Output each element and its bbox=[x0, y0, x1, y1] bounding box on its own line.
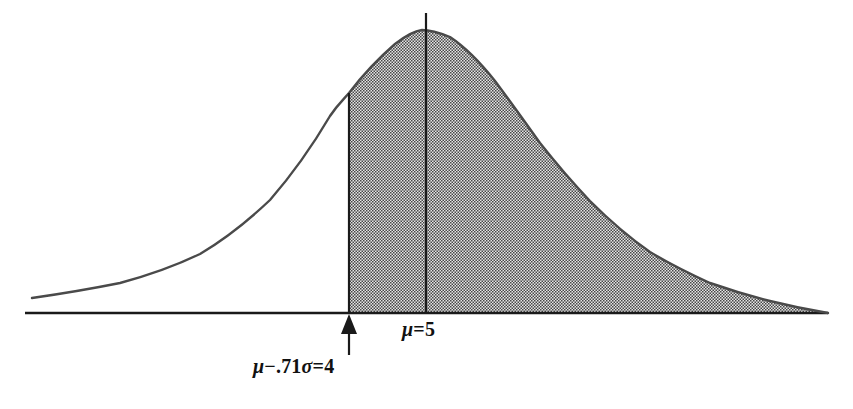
threshold-label-minus: − bbox=[264, 355, 276, 377]
threshold-arrow-head bbox=[341, 314, 357, 334]
threshold-label-value: 4 bbox=[324, 355, 334, 377]
threshold-label: μ−.71σ=4 bbox=[253, 355, 334, 378]
threshold-label-coefficient: .71 bbox=[276, 355, 302, 377]
threshold-label-mu: μ bbox=[253, 355, 264, 377]
threshold-label-sigma: σ bbox=[302, 355, 313, 377]
mean-label-mu: μ bbox=[402, 318, 413, 340]
mean-label: μ=5 bbox=[402, 318, 435, 341]
threshold-label-equals: = bbox=[313, 355, 325, 377]
distribution-chart bbox=[0, 0, 853, 409]
shaded-region bbox=[32, 30, 828, 313]
threshold-arrow bbox=[341, 314, 357, 355]
mean-label-value: 5 bbox=[425, 318, 435, 340]
mean-label-equals: = bbox=[413, 318, 425, 340]
density-curve-figure: μ−.71σ=4 μ=5 bbox=[0, 0, 853, 409]
